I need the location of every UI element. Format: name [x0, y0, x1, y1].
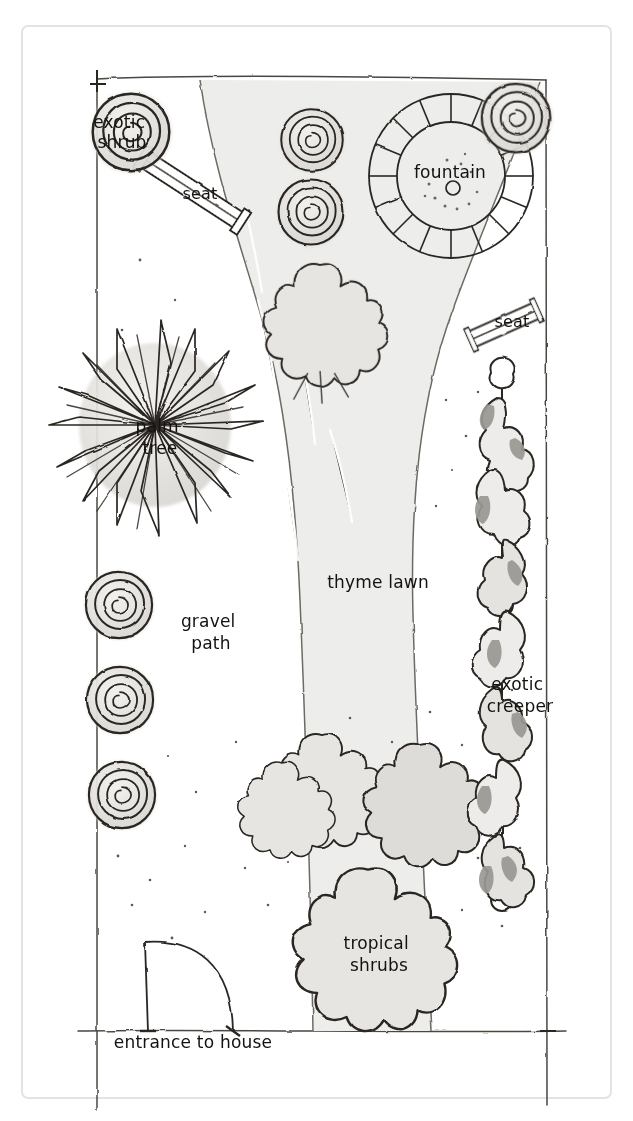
spiral-shrub [85, 571, 153, 639]
label-thyme-lawn: thyme lawn [327, 572, 429, 592]
spiral-shrub [88, 761, 156, 829]
label-fountain: fountain [414, 162, 486, 182]
exotic-creeper [468, 358, 534, 912]
label-entrance-to-house: entrance to house [114, 1032, 272, 1052]
label-exotic-shrub: exotic shrub [93, 112, 151, 152]
garden-plan-drawing: exotic shrub seat fountain seat palm tre… [0, 0, 633, 1121]
entrance-door-swing [145, 942, 233, 1032]
spiral-shrub [277, 178, 344, 245]
spiral-shrub [280, 108, 344, 172]
label-gravel-path: gravel path [181, 611, 241, 653]
spiral-shrub [481, 83, 552, 154]
label-seat-left: seat [182, 184, 217, 203]
label-seat-right: seat [494, 312, 529, 331]
garden-plan-page: exotic shrub seat fountain seat palm tre… [0, 0, 633, 1121]
spiral-shrub [86, 666, 154, 734]
